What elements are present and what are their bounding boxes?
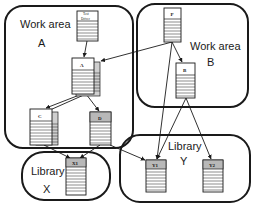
document-y1-label: Y1 <box>152 163 159 168</box>
library-x-label: Library <box>31 165 65 177</box>
document-p-label: P <box>171 12 174 17</box>
work-area-a-letter: A <box>38 37 46 49</box>
library-y-label: Library <box>168 140 202 152</box>
work-area-a-label: Work area <box>20 18 71 30</box>
edge-a-c-shadow <box>50 94 86 110</box>
document-y1[interactable]: Y1 <box>146 160 166 192</box>
library-y-letter: Y <box>180 155 188 167</box>
document-b[interactable]: B <box>176 63 195 98</box>
diagram-canvas: Work area A Work area B Library X Librar… <box>0 0 254 205</box>
library-x-letter: X <box>43 183 51 195</box>
edge-testdriver-a <box>84 41 87 57</box>
edge-c-y1 <box>110 145 145 160</box>
work-area-b-label: Work area <box>190 40 241 52</box>
document-p[interactable]: P <box>164 8 181 42</box>
document-a[interactable]: A <box>72 58 100 96</box>
document-a-label: A <box>80 63 84 68</box>
test-driver-label-line2: Driver <box>81 17 91 21</box>
test-driver-label-line1: Test <box>83 12 89 16</box>
document-d-label: D <box>98 116 102 121</box>
document-c-label: C <box>38 114 42 119</box>
document-y2-label: Y2 <box>209 163 216 168</box>
test-driver-document[interactable]: Test Driver <box>77 11 98 41</box>
edge-p-b <box>172 42 182 62</box>
document-y2[interactable]: Y2 <box>203 160 223 192</box>
work-area-b-letter: B <box>207 56 214 68</box>
library-y-region: Library Y <box>120 135 250 202</box>
document-d[interactable]: D <box>90 112 111 145</box>
document-x1[interactable]: X1 <box>66 158 86 195</box>
document-c[interactable]: C <box>30 109 58 145</box>
edge-a-d <box>86 94 99 111</box>
document-x1-label: X1 <box>72 161 79 166</box>
work-area-a-region: Work area A <box>5 6 133 148</box>
